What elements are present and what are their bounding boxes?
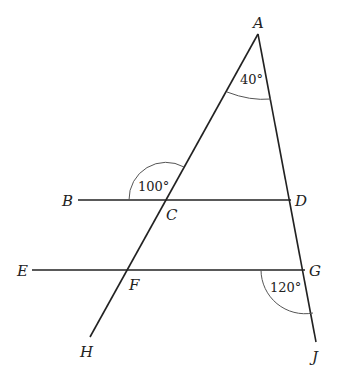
geometry-diagram: 40° 100° 120° A B C D E F G H J xyxy=(0,0,337,376)
point-label-A: A xyxy=(251,14,264,32)
point-label-B: B xyxy=(61,192,73,210)
point-label-H: H xyxy=(79,343,94,361)
line-AH xyxy=(90,34,258,337)
point-label-G: G xyxy=(309,262,321,280)
angle-label-A: 40° xyxy=(240,72,263,87)
angle-label-G: 120° xyxy=(270,280,301,295)
angle-label-C: 100° xyxy=(138,179,169,194)
point-label-J: J xyxy=(309,348,319,366)
line-AJ xyxy=(258,34,316,342)
point-label-E: E xyxy=(16,262,28,280)
angle-arc-A xyxy=(227,92,271,99)
point-label-F: F xyxy=(128,276,140,294)
point-label-D: D xyxy=(294,192,307,210)
point-label-C: C xyxy=(166,206,178,224)
